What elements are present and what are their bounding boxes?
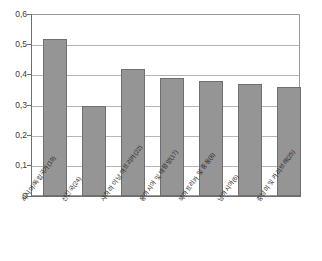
- y-axis-label-0.6: 0,6: [3, 10, 27, 19]
- bar-3: [160, 78, 184, 196]
- y-axis-label-0.4: 0,4: [3, 70, 27, 79]
- y-axis-label-0.5: 0,5: [3, 40, 27, 49]
- y-axis-label-0.3: 0,3: [3, 101, 27, 110]
- y-axis-label-0.1: 0,1: [3, 161, 27, 170]
- bar-5: [238, 84, 262, 196]
- bar-2: [121, 69, 145, 196]
- bar-chart: 0,6 0,5 0,4 0,3 0,2 0,1 0 러시아/독립국가(19) 선…: [0, 0, 322, 261]
- bar-6: [277, 87, 301, 196]
- y-axis-label-0.2: 0,2: [3, 131, 27, 140]
- bar-1: [82, 106, 106, 197]
- bar-4: [199, 81, 223, 196]
